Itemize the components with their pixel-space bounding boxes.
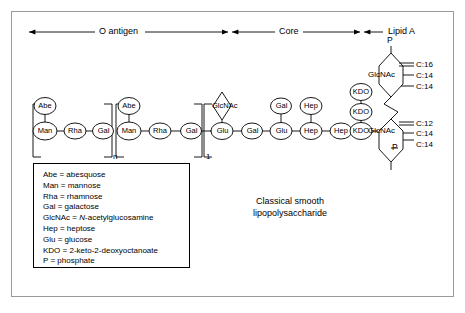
acyl-label-upper-2: C:14: [416, 71, 433, 80]
legend-sep: =: [58, 192, 67, 201]
node-label-hep-3: Hep: [330, 127, 352, 135]
region-label-o-antigen: O antigen: [97, 26, 140, 37]
legend-abbr: KDO: [43, 246, 60, 255]
legend-row: Abe = abesquose: [43, 170, 189, 181]
legend-name: heptose: [67, 224, 95, 233]
node-label-glcnac-upper: GlcNAc: [368, 70, 395, 79]
legend-sep: =: [58, 224, 67, 233]
legend-name: abesquose: [66, 170, 105, 179]
figure-canvas: O antigen Core Lipid A Abe Man Rha Gal A…: [0, 0, 465, 313]
node-label-rha-2: Rha: [149, 127, 171, 135]
legend-abbr: Gal: [43, 202, 55, 211]
node-label-glu-2: Glu: [271, 127, 292, 135]
caption-line-1: Classical smooth: [215, 196, 365, 208]
node-label-glu-1: Glu: [212, 127, 233, 135]
legend-row: KDO = 2-keto-2-deoxyoctanoate: [43, 246, 189, 257]
legend-name: phosphate: [57, 256, 94, 265]
node-label-gal-core: Gal: [242, 127, 263, 135]
legend-abbr: Rha: [43, 192, 58, 201]
legend-sep: =: [59, 181, 68, 190]
figure-caption: Classical smooth lipopolysaccharide: [215, 196, 365, 219]
legend-row: P = phosphate: [43, 256, 189, 267]
node-label-gal-2: Gal: [181, 127, 202, 135]
legend-row: Rha = rhamnose: [43, 192, 189, 203]
acyl-label-upper-1: C:16: [416, 60, 433, 69]
legend-box: Abe = abesquose Man = mannose Rha = rham…: [33, 163, 190, 268]
node-label-glcnac-lower: GlcNAc: [368, 126, 395, 135]
legend-abbr: Hep: [43, 224, 58, 233]
node-label-glcnac-core-branch: GlcNAc: [212, 102, 252, 110]
node-label-hep-1: Hep: [300, 127, 322, 135]
legend-abbr: Man: [43, 181, 59, 190]
legend-row: Glu = glucose: [43, 235, 189, 246]
legend-row: Gal = galactose: [43, 202, 189, 213]
legend-abbr: GlcNAc: [43, 213, 70, 222]
node-label-kdo-2: KDO: [350, 108, 372, 116]
node-label-kdo-1: KDO: [350, 88, 372, 96]
acyl-label-lower-1: C:12: [416, 119, 433, 128]
repeat-subscript-n: n: [113, 152, 117, 161]
node-label-abe-1: Abe: [34, 102, 56, 110]
legend-name: mannose: [68, 181, 101, 190]
caption-line-2: lipopolysaccharide: [215, 208, 365, 220]
legend-row: Hep = heptose: [43, 224, 189, 235]
node-label-man-1: Man: [33, 127, 57, 135]
label-phosphate-upper: P: [387, 36, 393, 45]
legend-name: galactose: [65, 202, 99, 211]
node-label-gal-1: Gal: [93, 127, 114, 135]
node-label-abe-2: Abe: [118, 102, 140, 110]
legend-abbr: Glu: [43, 235, 55, 244]
legend-row: GlcNAc = N-acetylglucosamine: [43, 213, 189, 224]
legend-sep: =: [70, 213, 79, 222]
legend-name: rhamnose: [67, 192, 103, 201]
legend-abbr: Abe: [43, 170, 57, 179]
legend-sep: =: [57, 170, 66, 179]
acyl-label-lower-2: C:14: [416, 129, 433, 138]
acyl-label-upper-3: C:14: [416, 82, 433, 91]
node-label-gal-branch: Gal: [271, 102, 292, 110]
acyl-label-lower-3: C:14: [416, 140, 433, 149]
node-label-rha-1: Rha: [64, 127, 86, 135]
legend-name: glucose: [65, 235, 93, 244]
legend-row: Man = mannose: [43, 181, 189, 192]
legend-sep: =: [55, 235, 64, 244]
legend-name: -acetylglucosamine: [85, 213, 153, 222]
legend-name: 2-keto-2-deoxyoctanoate: [69, 246, 158, 255]
node-label-hep-2: Hep: [300, 102, 322, 110]
legend-sep: =: [55, 202, 64, 211]
repeat-subscript-1: 1: [206, 152, 210, 161]
label-phosphate-lower: P: [392, 143, 398, 152]
legend-sep: =: [48, 256, 57, 265]
node-label-man-2: Man: [117, 127, 141, 135]
region-label-core: Core: [277, 26, 301, 37]
